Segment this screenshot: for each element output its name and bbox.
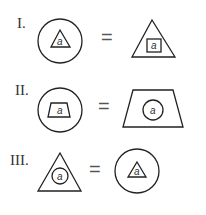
row-2-right-expression: a xyxy=(123,90,183,127)
variable-a: a xyxy=(150,105,156,116)
variable-a: a xyxy=(134,166,140,177)
row-1: I. a = a xyxy=(17,15,175,63)
row-2-left-expression: a xyxy=(38,88,82,132)
equals-sign: = xyxy=(98,95,110,117)
equals-sign: = xyxy=(89,158,101,180)
row-1-left-expression: a xyxy=(38,19,82,63)
variable-a: a xyxy=(57,171,63,182)
row-3: III. a = a xyxy=(10,149,159,193)
row-3-left-expression: a xyxy=(38,153,81,191)
row-2: II. a = a xyxy=(15,82,183,132)
equals-sign: = xyxy=(101,26,113,48)
variable-a: a xyxy=(57,36,63,47)
variable-a: a xyxy=(57,105,63,116)
row-1-label: I. xyxy=(17,15,26,31)
row-3-right-expression: a xyxy=(115,149,159,193)
shape-equations-diagram: I. a = a II. a = a III. xyxy=(0,0,206,215)
row-2-label: II. xyxy=(15,82,29,98)
row-1-right-expression: a xyxy=(132,20,175,57)
variable-a: a xyxy=(151,40,157,51)
row-3-label: III. xyxy=(10,152,29,168)
